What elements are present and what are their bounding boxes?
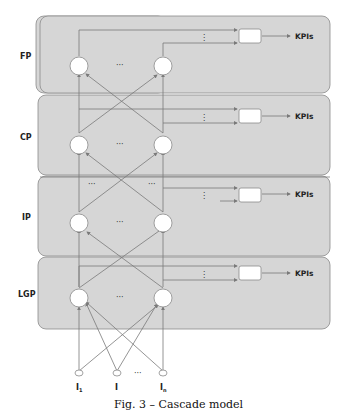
node-ip-n <box>154 214 172 232</box>
vertical-ellipsis-fp: ⋮ <box>200 33 208 42</box>
layer-label-ip: IP <box>22 213 31 222</box>
output-box-fp <box>239 29 261 43</box>
input-node-1 <box>75 370 83 376</box>
output-box-cp <box>239 109 261 123</box>
node-ip-1 <box>70 214 88 232</box>
input-node-i <box>113 370 121 376</box>
output-box-ip <box>239 188 261 202</box>
layer-label-cp: CP <box>20 133 32 142</box>
node-cp-n <box>154 136 172 154</box>
input-label-1: I1 <box>76 383 83 393</box>
input-node-n <box>159 370 167 376</box>
node-lgp-n <box>154 289 172 307</box>
output-box-lgp <box>239 266 261 280</box>
node-cp-1 <box>70 136 88 154</box>
layer-label-lgp: LGP <box>18 290 36 299</box>
ip-ellipsis-left: ··· <box>88 180 96 189</box>
node-lgp-1 <box>70 289 88 307</box>
node-ellipsis-fp: ··· <box>116 61 124 70</box>
vertical-ellipsis-cp: ⋮ <box>200 113 208 122</box>
node-ellipsis-lgp: ··· <box>116 293 124 302</box>
layer-panel-cp <box>38 95 330 175</box>
node-fp-1 <box>70 57 88 75</box>
node-ellipsis-cp: ··· <box>116 140 124 149</box>
vertical-ellipsis-lgp: ⋮ <box>200 270 208 279</box>
node-fp-n <box>154 57 172 75</box>
input-label-n: In <box>160 383 167 393</box>
ip-ellipsis-right: ··· <box>148 180 156 189</box>
node-ellipsis-ip: ··· <box>116 218 124 227</box>
inputs-ellipsis: ··· <box>134 369 142 378</box>
layer-panel-fp <box>36 16 330 93</box>
input-label-i: I <box>115 383 118 392</box>
kpi-label-ip: KPIs <box>295 190 314 199</box>
layer-label-fp: FP <box>20 52 31 61</box>
figure-caption: Fig. 3 – Cascade model <box>0 398 357 411</box>
kpi-label-lgp: KPIs <box>295 269 314 278</box>
vertical-ellipsis-ip: ⋮ <box>200 191 208 200</box>
kpi-label-cp: KPIs <box>295 112 314 121</box>
kpi-label-fp: KPIs <box>295 32 314 41</box>
